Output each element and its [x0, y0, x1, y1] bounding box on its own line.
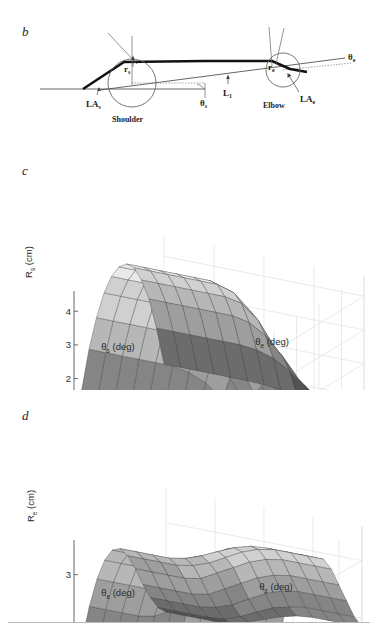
label-la-e: LAe — [300, 94, 316, 105]
y-axis-title: θe (deg) — [255, 336, 289, 349]
muscle-path-thick — [83, 61, 307, 89]
la-e-arrowhead — [288, 73, 292, 78]
label-r-s: rs — [124, 64, 131, 75]
z-axis-title: Rs (cm) — [23, 246, 36, 278]
z-tick-label: 4 — [66, 306, 71, 317]
panel-d-surface-plot: 123150100500050100150Re (cm)θe (deg)θs (… — [0, 398, 378, 623]
panel-b-diagram: rs re LAs LAe θs θe L1 Shoulder Elbow — [0, 0, 378, 140]
label-theta-e: θe — [348, 52, 356, 63]
x-axis-title: θe (deg) — [101, 587, 135, 600]
l1-arrowhead — [226, 75, 230, 80]
x-axis-title: θs (deg) — [101, 341, 134, 354]
label-l1: L1 — [223, 88, 232, 99]
z-tick-label: 2 — [66, 373, 71, 384]
label-la-s: LAs — [86, 99, 102, 110]
bottom-divider-rule — [8, 622, 370, 623]
label-r-e: re — [268, 62, 275, 73]
z-axis-title: Re (cm) — [25, 490, 38, 522]
label-shoulder: Shoulder — [112, 115, 144, 124]
label-theta-s: θs — [200, 98, 208, 109]
z-tick-label: 3 — [66, 339, 71, 350]
z-tick-label: 3 — [66, 569, 71, 580]
y-axis-title: θs (deg) — [259, 581, 292, 594]
la-e-leader — [288, 74, 299, 92]
panel-c-surface-plot: 01234150100500150100500Rs (cm)θs (deg)θe… — [0, 150, 378, 390]
label-elbow: Elbow — [263, 101, 285, 110]
theta-s-arc — [197, 84, 204, 89]
elbow-angle-line — [276, 28, 284, 64]
